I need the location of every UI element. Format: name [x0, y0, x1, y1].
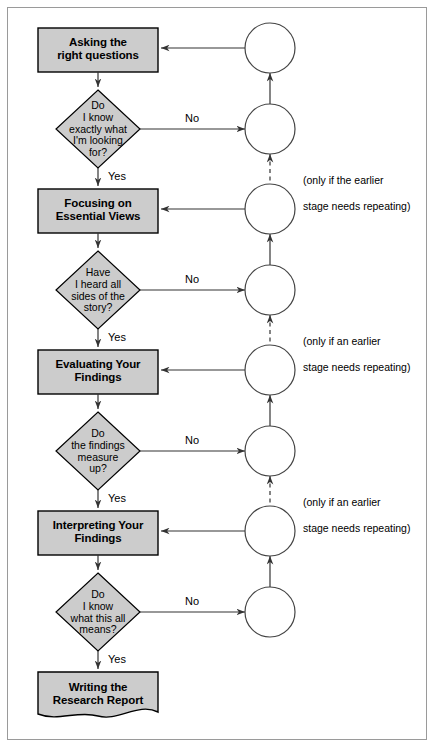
connector-circle-1 [245, 23, 295, 73]
edge-label-yes-1: Yes [108, 170, 126, 182]
connector-circle-7 [245, 506, 295, 556]
flowchart-frame: Asking the right questions Focusing on E… [0, 0, 434, 747]
edge-label-yes-4: Yes [108, 653, 126, 665]
note-repeat-1: (only if the earlier stage needs repeati… [303, 161, 410, 227]
connector-circle-8 [245, 587, 295, 637]
edge-label-no-2: No [185, 273, 199, 285]
diamond-findings-measure-up [56, 412, 140, 490]
note-repeat-2: (only if an earlier stage needs repeatin… [303, 322, 410, 388]
diamond-heard-all-sides [56, 251, 140, 329]
edge-label-no-3: No [185, 434, 199, 446]
box-asking-right-questions [38, 28, 158, 72]
doc-writing-research-report [38, 672, 158, 717]
connector-circle-3 [245, 184, 295, 234]
connector-circle-5 [245, 345, 295, 395]
box-interpreting-your-findings [38, 511, 158, 555]
diamond-know-exactly [56, 90, 140, 168]
box-evaluating-your-findings [38, 350, 158, 394]
note-repeat-3: (only if an earlier stage needs repeatin… [303, 483, 410, 549]
edge-label-yes-2: Yes [108, 331, 126, 343]
edge-label-no-4: No [185, 595, 199, 607]
edge-label-yes-3: Yes [108, 492, 126, 504]
edge-label-no-1: No [185, 112, 199, 124]
diamond-know-what-means [56, 573, 140, 651]
connector-circle-2 [245, 104, 295, 154]
connector-circle-6 [245, 426, 295, 476]
box-focusing-essential-views [38, 189, 158, 233]
connector-circle-4 [245, 265, 295, 315]
